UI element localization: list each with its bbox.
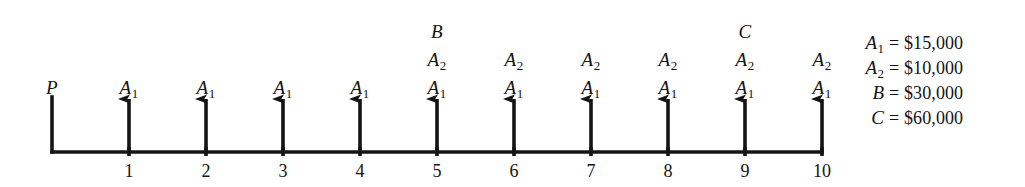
period-number-3: 3 bbox=[279, 162, 288, 180]
cash-flow-arrows bbox=[129, 99, 822, 152]
legend-value: $15,000 bbox=[904, 33, 963, 54]
legend-equals-sign: = bbox=[884, 83, 904, 104]
legend-row-A1: A1=$15,000 bbox=[858, 32, 1018, 57]
flow-label-A1-period-1: A1 bbox=[119, 78, 138, 100]
legend-value: $10,000 bbox=[904, 58, 963, 79]
flow-label-A2-period-7: A2 bbox=[581, 50, 600, 72]
flow-label-A1-period-6: A1 bbox=[504, 78, 523, 100]
legend-value: $60,000 bbox=[904, 108, 963, 129]
legend-symbol: A1 bbox=[858, 32, 884, 57]
flow-label-A2-period-5: A2 bbox=[427, 50, 446, 72]
period-number-2: 2 bbox=[202, 162, 211, 180]
flow-label-B-period-5: B bbox=[431, 22, 443, 41]
flow-label-A1-period-3: A1 bbox=[273, 78, 292, 100]
legend-equals-sign: = bbox=[884, 33, 904, 54]
legend-row-C: C=$60,000 bbox=[858, 107, 1018, 132]
legend-value: $30,000 bbox=[904, 83, 963, 104]
period-number-10: 10 bbox=[813, 162, 831, 180]
flow-label-A1-period-4: A1 bbox=[350, 78, 369, 100]
flow-label-A1-period-8: A1 bbox=[658, 78, 677, 100]
legend-symbol: A2 bbox=[858, 57, 884, 82]
period-number-6: 6 bbox=[510, 162, 519, 180]
legend-symbol: B bbox=[858, 82, 884, 104]
period-number-1: 1 bbox=[125, 162, 134, 180]
period-number-9: 9 bbox=[741, 162, 750, 180]
flow-label-A2-period-10: A2 bbox=[812, 50, 831, 72]
period-number-8: 8 bbox=[664, 162, 673, 180]
flow-label-P-period-0: P bbox=[46, 78, 58, 97]
legend-equals-sign: = bbox=[884, 108, 904, 129]
period-number-4: 4 bbox=[356, 162, 365, 180]
legend-row-B: B=$30,000 bbox=[858, 82, 1018, 107]
flow-label-A1-period-2: A1 bbox=[196, 78, 215, 100]
value-legend: A1=$15,000A2=$10,000B=$30,000C=$60,000 bbox=[858, 32, 1018, 132]
legend-symbol: C bbox=[858, 107, 884, 129]
period-number-7: 7 bbox=[587, 162, 596, 180]
flow-label-A2-period-9: A2 bbox=[735, 50, 754, 72]
legend-row-A2: A2=$10,000 bbox=[858, 57, 1018, 82]
flow-label-C-period-9: C bbox=[739, 22, 752, 41]
flow-label-A1-period-5: A1 bbox=[427, 78, 446, 100]
flow-label-A2-period-8: A2 bbox=[658, 50, 677, 72]
flow-label-A1-period-7: A1 bbox=[581, 78, 600, 100]
period-number-5: 5 bbox=[433, 162, 442, 180]
flow-label-A1-period-10: A1 bbox=[812, 78, 831, 100]
flow-label-A2-period-6: A2 bbox=[504, 50, 523, 72]
legend-equals-sign: = bbox=[884, 58, 904, 79]
flow-label-A1-period-9: A1 bbox=[735, 78, 754, 100]
